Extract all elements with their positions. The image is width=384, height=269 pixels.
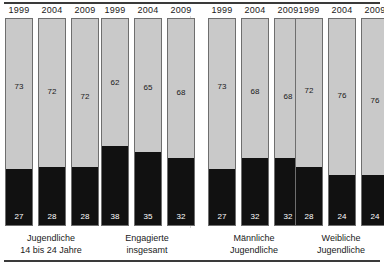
- x-axis-tick-label: 2009: [167, 5, 195, 15]
- bar-value-label-lower: 27: [5, 212, 33, 221]
- bar-value-label-upper: 68: [167, 88, 195, 97]
- bar-value-label-upper: 68: [241, 87, 269, 96]
- x-axis-tick-label: 2004: [134, 5, 162, 15]
- bar-value-label-lower: 28: [295, 212, 323, 221]
- group-caption-line-1: Weibliche: [281, 232, 384, 244]
- bar-value-label-upper: 76: [328, 91, 356, 100]
- bar-group: 199973272004722820097228: [5, 0, 99, 269]
- stacked-bar-chart: 199973272004722820097228Jugendliche14 bi…: [0, 0, 384, 269]
- bar-value-label-lower: 27: [208, 212, 236, 221]
- x-axis-tick-label: 2004: [328, 5, 356, 15]
- bar-value-label-lower: 32: [241, 212, 269, 221]
- bar-value-label-lower: 32: [167, 212, 195, 221]
- bar-value-label-lower: 38: [101, 212, 129, 221]
- stacked-bar[interactable]: [5, 18, 33, 226]
- bar-value-label-upper: 65: [134, 83, 162, 92]
- bar-value-label-lower: 24: [328, 212, 356, 221]
- bar-value-label-upper: 72: [71, 92, 99, 101]
- group-caption-line-2: insgesamt: [87, 244, 207, 256]
- bar-value-label-upper: 73: [208, 82, 236, 91]
- x-axis-tick-label: 1999: [5, 5, 33, 15]
- stacked-bar[interactable]: [328, 18, 356, 226]
- stacked-bar[interactable]: [38, 18, 66, 226]
- stacked-bar[interactable]: [134, 18, 162, 226]
- bar-value-label-lower: 35: [134, 212, 162, 221]
- stacked-bar[interactable]: [208, 18, 236, 226]
- bar-value-label-lower: 28: [71, 212, 99, 221]
- group-caption-line-2: Jugendliche: [281, 244, 384, 256]
- stacked-bar[interactable]: [361, 18, 384, 226]
- bar-value-label-upper: 62: [101, 78, 129, 87]
- x-axis-tick-label: 1999: [101, 5, 129, 15]
- x-axis-tick-label: 1999: [208, 5, 236, 15]
- stacked-bar[interactable]: [101, 18, 129, 226]
- group-caption: Engagierteinsgesamt: [87, 232, 207, 256]
- bar-value-label-lower: 28: [38, 212, 66, 221]
- x-axis-tick-label: 2009: [361, 5, 384, 15]
- bar-segment-upper: [209, 19, 235, 171]
- x-axis-tick-label: 2009: [71, 5, 99, 15]
- bar-value-label-lower: 24: [361, 212, 384, 221]
- stacked-bar[interactable]: [167, 18, 195, 226]
- bar-group: 199962382004653520096832: [101, 0, 195, 269]
- bar-segment-upper: [6, 19, 32, 171]
- x-axis-tick-label: 1999: [295, 5, 323, 15]
- stacked-bar[interactable]: [71, 18, 99, 226]
- bar-value-label-upper: 72: [295, 86, 323, 95]
- stacked-bar[interactable]: [241, 18, 269, 226]
- bar-value-label-upper: 73: [5, 82, 33, 91]
- group-caption: WeiblicheJugendliche: [281, 232, 384, 256]
- bar-value-label-upper: 72: [38, 87, 66, 96]
- stacked-bar[interactable]: [295, 18, 323, 226]
- bar-group: 199973272004683220096832: [208, 0, 302, 269]
- bar-value-label-upper: 76: [361, 96, 384, 105]
- x-axis-tick-label: 2004: [241, 5, 269, 15]
- group-caption-line-1: Engagierte: [87, 232, 207, 244]
- x-axis-tick-label: 2004: [38, 5, 66, 15]
- bar-group: 199972282004762420097624: [295, 0, 384, 269]
